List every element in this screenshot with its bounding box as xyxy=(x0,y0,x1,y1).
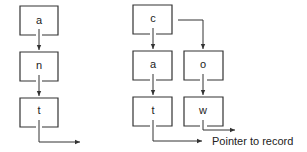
right-trie: c a t o w Pointer to record xyxy=(133,5,293,147)
svg-text:w: w xyxy=(198,104,207,116)
svg-text:o: o xyxy=(200,58,206,70)
record-pointer-cat xyxy=(153,120,202,141)
record-pointer-cow xyxy=(203,120,235,130)
arrow-c-to-o xyxy=(178,20,203,49)
record-pointer-left xyxy=(39,120,80,142)
svg-text:a: a xyxy=(150,58,157,70)
pointer-to-record-label: Pointer to record xyxy=(212,135,293,147)
trie-diagram: a n t c a t xyxy=(0,0,307,152)
svg-text:c: c xyxy=(150,12,156,24)
svg-text:n: n xyxy=(36,59,42,71)
left-trie: a n t xyxy=(20,6,80,142)
svg-text:t: t xyxy=(37,104,40,116)
svg-text:t: t xyxy=(151,104,154,116)
svg-text:a: a xyxy=(36,14,43,26)
